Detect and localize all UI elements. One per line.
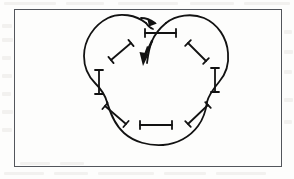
figure-page	[0, 0, 294, 179]
marker-upper-left	[108, 40, 133, 63]
marker-upper-right	[185, 40, 209, 64]
marker-right-vertical	[211, 68, 219, 92]
marker-lower-right	[185, 102, 211, 127]
marker-top-center	[145, 29, 176, 37]
diagram-drawing	[0, 0, 294, 179]
marker-bottom-center	[140, 121, 172, 129]
arrow-center-down	[140, 41, 153, 66]
arrow-top-right	[141, 18, 157, 27]
